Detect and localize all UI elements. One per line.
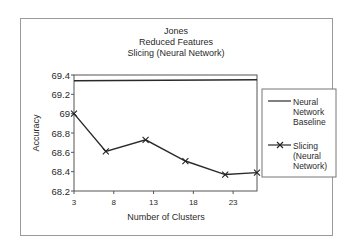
- x-axis-label: Number of Clusters: [127, 212, 205, 222]
- y-tick-label: 68.6: [52, 147, 71, 158]
- title-line-1: Jones: [164, 26, 189, 36]
- x-axis: 38131823: [72, 191, 238, 207]
- line-chart: Jones Reduced Features Slicing (Neural N…: [0, 0, 352, 248]
- title-line-2: Reduced Features: [139, 37, 214, 47]
- y-tick-label: 69.2: [52, 89, 71, 100]
- y-tick-label: 68.8: [52, 128, 71, 139]
- y-tick-label: 68.2: [52, 186, 71, 197]
- y-tick-label: 69.4: [52, 70, 71, 81]
- y-axis: 68.268.468.668.86969.269.4: [52, 70, 75, 197]
- x-tick-label: 3: [72, 198, 77, 207]
- series-group: [71, 80, 260, 178]
- legend-label: (Neural: [293, 151, 321, 161]
- legend-label: Network: [293, 107, 325, 117]
- title-line-3: Slicing (Neural Network): [127, 48, 224, 58]
- chart-title: Jones Reduced Features Slicing (Neural N…: [127, 26, 224, 58]
- legend-label: Network): [293, 161, 327, 171]
- x-tick-label: 18: [189, 198, 198, 207]
- legend-label: Slicing: [293, 141, 318, 151]
- series-line-baseline: [74, 80, 257, 81]
- x-tick-label: 8: [112, 198, 117, 207]
- legend-label: Neural: [293, 97, 318, 107]
- y-tick-label: 68.4: [52, 166, 71, 177]
- y-tick-label: 69: [59, 108, 70, 119]
- x-tick-label: 13: [149, 198, 158, 207]
- legend: NeuralNetworkBaselineSlicing(NeuralNetwo…: [262, 89, 336, 177]
- y-axis-label: Accuracy: [31, 114, 41, 152]
- x-tick-label: 23: [229, 198, 238, 207]
- legend-label: Baseline: [293, 117, 326, 127]
- series-line-slicing: [74, 114, 257, 175]
